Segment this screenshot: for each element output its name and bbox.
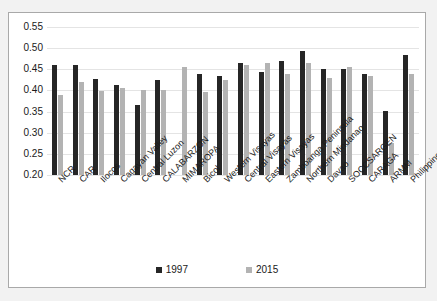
y-axis-tick-label: 0.45	[24, 64, 43, 74]
legend-item-2015[interactable]: 2015	[246, 265, 278, 275]
legend-label: 1997	[166, 265, 188, 275]
bar-2015-car	[79, 82, 84, 175]
bar-1997-ilocos	[93, 79, 98, 175]
legend-swatch-icon	[156, 267, 162, 273]
x-axis-tick-label: CAR	[78, 178, 84, 184]
bar-group	[47, 27, 68, 175]
x-axis-tick-label: Cagayan Valley	[119, 178, 125, 184]
x-axis-tick-label: Ilocos	[99, 178, 105, 184]
y-axis-tick-label: 0.30	[24, 128, 43, 138]
x-axis-tick-label: Eastern Visayas	[264, 178, 270, 184]
legend-item-1997[interactable]: 1997	[156, 265, 188, 275]
y-axis-tick-label: 0.55	[24, 22, 43, 32]
plot-area: 0.550.500.450.400.350.300.250.20	[47, 27, 419, 175]
bar-2015-ncr	[58, 95, 63, 175]
x-axis-tick-label: Central Luzon	[140, 178, 146, 184]
x-axis-tick-label: Northern Mindanao	[305, 178, 311, 184]
bar-2015-philippines	[409, 74, 414, 175]
bar-group	[88, 27, 109, 175]
y-axis-tick-label: 0.25	[24, 149, 43, 159]
bar-2015-western-visayas	[223, 80, 228, 175]
x-axis-tick-label: Zamboanga Peninsula	[285, 178, 291, 184]
bar-1997-western-visayas	[217, 76, 222, 175]
bar-1997-ncr	[52, 65, 57, 175]
legend-label: 2015	[256, 265, 278, 275]
chart-legend: 19972015	[9, 265, 425, 275]
x-axis-tick-label: CALABARZON	[161, 178, 167, 184]
x-axis-tick-label: Western Visayas	[223, 178, 229, 184]
bar-series-container	[47, 27, 419, 175]
bar-group	[398, 27, 419, 175]
x-axis-tick-label: NCR	[57, 178, 63, 184]
bar-2015-cagayan-valley	[120, 88, 125, 175]
bar-2015-ilocos	[99, 91, 104, 175]
bar-1997-car	[73, 65, 78, 175]
chart-frame: 0.550.500.450.400.350.300.250.20 NCRCARI…	[8, 12, 426, 288]
bar-group	[68, 27, 89, 175]
legend-swatch-icon	[246, 267, 252, 273]
x-axis-tick-label: Bicol	[202, 178, 208, 184]
bar-group	[109, 27, 130, 175]
x-axis-tick-label: ARMM	[388, 178, 394, 184]
x-axis-tick-label: SOCCSARGEN	[347, 178, 353, 184]
x-axis-tick-label: Davao	[326, 178, 332, 184]
x-axis-tick-label: Central Visayas	[243, 178, 249, 184]
y-axis-tick-label: 0.20	[24, 170, 43, 180]
y-axis-tick-label: 0.40	[24, 85, 43, 95]
y-axis-tick-label: 0.35	[24, 107, 43, 117]
x-axis-tick-label: Philippines	[409, 178, 415, 184]
x-axis-tick-label: CARAGA	[367, 178, 373, 184]
x-axis-tick-label: MIMAROPA	[181, 178, 187, 184]
y-axis-tick-label: 0.50	[24, 43, 43, 53]
